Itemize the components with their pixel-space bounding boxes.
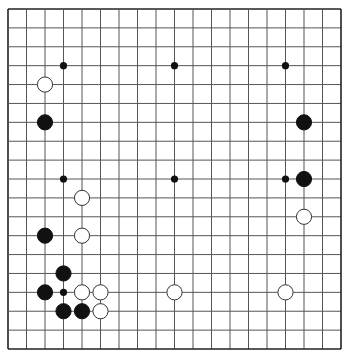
star-point-icon (60, 175, 67, 182)
white-stone (167, 285, 182, 300)
star-point-icon (60, 62, 67, 69)
white-stone (93, 304, 108, 319)
white-stone (74, 228, 89, 243)
white-stone (74, 190, 89, 205)
black-stone (74, 304, 89, 319)
black-stone (296, 115, 311, 130)
star-point-icon (60, 289, 67, 296)
white-stone (278, 285, 293, 300)
star-point-icon (282, 175, 289, 182)
black-stone (37, 115, 52, 130)
black-stone (56, 304, 71, 319)
black-stone (37, 285, 52, 300)
go-board[interactable] (0, 0, 345, 361)
star-point-icon (171, 175, 178, 182)
star-point-icon (171, 62, 178, 69)
white-stone (93, 285, 108, 300)
white-stone (296, 209, 311, 224)
black-stone (296, 171, 311, 186)
black-stone (37, 228, 52, 243)
white-stone (74, 285, 89, 300)
black-stone (56, 266, 71, 281)
white-stone (37, 77, 52, 92)
star-point-icon (282, 62, 289, 69)
